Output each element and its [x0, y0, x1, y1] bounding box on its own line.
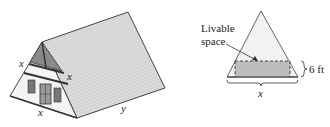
livable-label-line1: Livable — [201, 22, 235, 34]
livable-space-rect — [235, 61, 290, 77]
house-label-right: x — [66, 70, 72, 82]
base-brace — [227, 80, 298, 86]
window-right — [54, 88, 61, 102]
house-label-left: x — [18, 57, 24, 69]
house-label-base: x — [37, 106, 43, 118]
height-brace — [301, 61, 307, 77]
house-label-length: y — [120, 102, 126, 114]
base-label: x — [257, 87, 263, 99]
diagram-canvas: x x x y Livable space 6 ft x — [0, 0, 330, 127]
window-left — [28, 80, 35, 93]
livable-label-line2: space — [201, 35, 226, 47]
a-frame-house: x x x y — [10, 12, 165, 118]
cross-section: Livable space 6 ft x — [201, 11, 324, 99]
height-label: 6 ft — [309, 63, 324, 75]
